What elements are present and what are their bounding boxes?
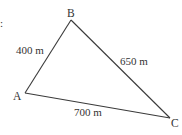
vertex-label-a: A <box>13 90 22 102</box>
side-ab <box>25 20 71 93</box>
vertex-label-c: C <box>171 117 179 129</box>
vertex-label-b: B <box>67 7 75 19</box>
triangle-diagram: : B A C 400 m 650 m 700 m <box>0 0 182 135</box>
side-label-ac: 700 m <box>74 106 102 118</box>
side-label-ab: 400 m <box>16 44 44 56</box>
cropped-edge-mark: : <box>0 17 3 29</box>
side-label-bc: 650 m <box>120 55 148 67</box>
